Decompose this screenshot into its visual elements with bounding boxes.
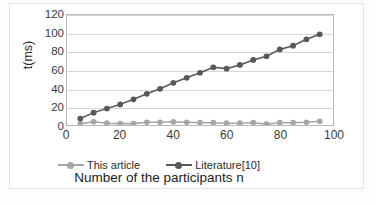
data-point [250,57,256,63]
data-point [264,53,270,59]
series-plot [67,15,333,125]
data-point [117,121,123,125]
data-point [224,120,230,125]
data-point [237,120,243,125]
data-point [197,70,203,76]
chart-figure: t(ms) 120 100 80 60 40 20 0 0 20 40 60 8… [0,0,376,206]
data-point [131,96,137,102]
y-axis-tick-labels: 120 100 80 60 40 20 0 [30,8,64,132]
data-point [144,119,150,125]
data-point [117,102,123,108]
data-point [210,120,216,125]
legend-marker-icon [58,161,84,170]
data-point [104,106,110,112]
data-point [171,119,177,125]
data-point [131,121,137,125]
data-point [184,75,190,81]
x-tick-20: 20 [100,128,140,142]
data-point [304,119,310,125]
data-point [290,120,296,125]
y-tick-120: 120 [45,8,64,20]
y-tick-100: 100 [45,27,64,39]
data-point [210,64,216,70]
x-tick-60: 60 [207,128,247,142]
y-tick-20: 20 [51,101,64,113]
series-line [80,34,319,118]
legend-dot [175,162,182,169]
data-point [237,62,243,68]
x-tick-40: 40 [153,128,193,142]
data-point [157,119,163,125]
data-point [104,120,110,125]
x-axis-title: Number of the participants n [9,170,309,185]
y-tick-80: 80 [51,45,64,57]
data-point [250,120,256,125]
x-axis-tick-labels: 0 20 40 60 80 100 [56,128,348,146]
legend-dot [67,162,74,169]
data-point [157,86,163,92]
data-point [304,36,310,42]
data-point [264,121,270,125]
x-tick-0: 0 [46,128,86,142]
data-point [171,80,177,86]
data-point [91,110,97,116]
x-tick-80: 80 [260,128,300,142]
data-point [290,43,296,49]
data-point [277,47,283,53]
data-point [317,31,323,37]
y-tick-40: 40 [51,83,64,95]
data-point [197,120,203,125]
data-point [224,66,230,72]
data-point [277,120,283,125]
data-point [184,119,190,125]
legend-marker-icon [166,161,192,170]
data-point [144,91,150,97]
data-point [91,119,97,125]
y-tick-60: 60 [51,64,64,76]
data-point [317,118,323,124]
plot-area [66,14,334,126]
x-tick-100: 100 [314,128,354,142]
series-literature [77,31,322,121]
data-point [77,116,83,122]
series-this-article [77,118,322,125]
